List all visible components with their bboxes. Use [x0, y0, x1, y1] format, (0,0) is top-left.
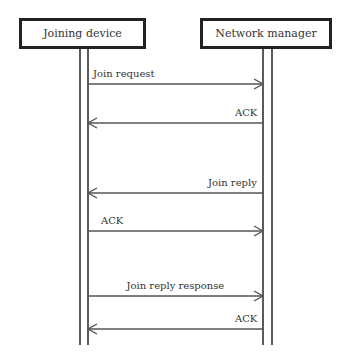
- message-label: Join reply: [208, 177, 257, 188]
- message-label: ACK: [101, 215, 123, 226]
- message-label: Join request: [93, 68, 154, 79]
- sequence-diagram: [0, 0, 347, 359]
- message-label: Join reply response: [127, 280, 225, 291]
- message-label: ACK: [235, 313, 257, 324]
- message-label: ACK: [235, 107, 257, 118]
